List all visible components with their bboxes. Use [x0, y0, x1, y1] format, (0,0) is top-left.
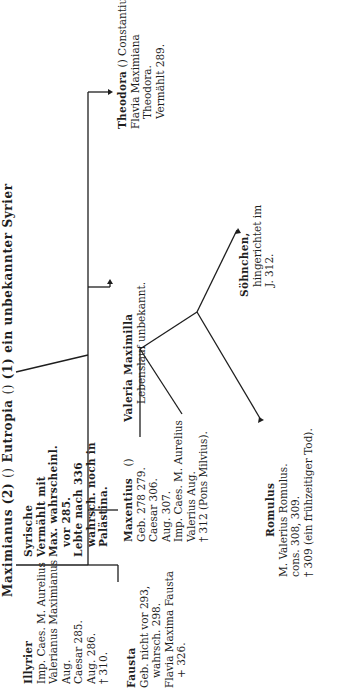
detail-line: Vermählt 289. — [154, 0, 167, 129]
eutropia-name: Eutropia — [1, 399, 15, 462]
detail-line: Geb. 278 279. — [135, 420, 148, 542]
detail-line: Lebte nach 336 — [72, 442, 85, 557]
theodora-entry: Theodora () Constantius I. Flavia Maximi… — [116, 0, 166, 129]
detail-line: Vermählt mit — [35, 442, 48, 557]
detail-line: Caesar 285. — [72, 560, 85, 684]
detail-line: Caesar 306. — [147, 420, 160, 542]
detail-line: Max. wahrscheinl. — [47, 442, 60, 557]
theodora-name: Theodora — [116, 71, 128, 129]
romulus-entry: Romulus M. Valerius Romulus. cons. 308, … — [264, 428, 314, 577]
detail-line: Imp. Caes. M. Aurelius — [172, 420, 185, 542]
detail-line: Valerius Aug. — [185, 420, 198, 542]
constantius-name: Constantius I. — [116, 0, 128, 56]
detail-line: M. Valerius Romulus. — [277, 428, 290, 577]
detail-line: Syrische — [22, 442, 35, 557]
detail-line: Flavia Maximiana — [129, 0, 142, 129]
detail-line: Palästina. — [97, 442, 110, 557]
valeria-name: Valeria Maximilla — [122, 282, 135, 422]
detail-line: cons. 308, 309. — [289, 428, 302, 577]
detail-line: † 310. — [97, 560, 110, 684]
fausta-entry: Fausta Geb. nicht vor 293, wahrsch. 298.… — [125, 571, 188, 688]
detail-line: Imp. Caes. M. Aurelius — [35, 560, 48, 684]
detail-line: † 312 (Pons Milvius). — [197, 420, 210, 542]
detail-line: + 326. — [175, 571, 188, 688]
soehnchen-name: Söhnchen, — [238, 205, 251, 297]
detail-line: Flavia Maxima Fausta — [163, 571, 176, 688]
maximianus-name: Maximianus (2) — [1, 483, 15, 597]
detail-line: † 309 (ein frühzeitiger Tod). — [302, 428, 315, 577]
parents-header: Maximianus (2) () Eutropia () (1) ein un… — [2, 183, 15, 597]
detail-line: hingerichtet im — [251, 205, 264, 297]
marriage-symbol: () — [122, 458, 134, 466]
maxentius-name: Maxentius — [122, 478, 134, 542]
detail-line: Theodora. — [141, 0, 154, 129]
fausta-name: Fausta — [125, 571, 138, 688]
marriage-symbol: () — [1, 384, 15, 395]
genealogy-page: Maximianus (2) () Eutropia () (1) ein un… — [0, 0, 342, 692]
detail-line: Valerianus Maximianus — [47, 560, 60, 684]
detail-line: Aug. 286. — [85, 560, 98, 684]
marriage-symbol: () — [116, 59, 128, 67]
eutropia-first-husband: (1) ein unbekannter Syrier — [1, 183, 15, 379]
detail-line: vor 285. — [60, 442, 73, 557]
detail-line: Aug. — [60, 560, 73, 684]
detail-line: Aug. 307. — [160, 420, 173, 542]
detail-line: J. 312. — [263, 205, 276, 297]
valeria-maximilla-entry: Valeria Maximilla Lebenslauf unbekannt. — [122, 282, 147, 422]
marriage-symbol: () — [1, 467, 15, 478]
detail-line: Lebenslauf unbekannt. — [135, 282, 148, 422]
maximianus-details: Illyrier Imp. Caes. M. Aurelius Valerian… — [22, 560, 110, 684]
detail-line: wahrsch. noch in — [85, 442, 98, 557]
eutropia-details: Syrische Vermählt mit Max. wahrscheinl. … — [22, 442, 110, 557]
detail-line: Illyrier — [22, 560, 35, 684]
maxentius-entry: Maxentius () Geb. 278 279. Caesar 306. A… — [122, 420, 210, 542]
detail-line: Geb. nicht vor 293, — [138, 571, 151, 688]
romulus-name: Romulus — [264, 428, 277, 577]
soehnchen-entry: Söhnchen, hingerichtet im J. 312. — [238, 205, 276, 297]
detail-line: wahrsch. 298. — [150, 571, 163, 688]
